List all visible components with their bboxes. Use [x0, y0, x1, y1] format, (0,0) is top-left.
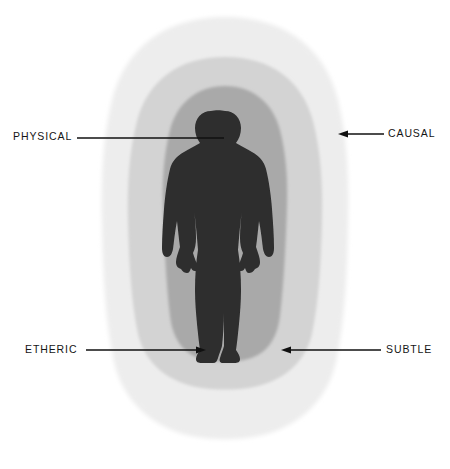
- label-subtle: SUBTLE: [386, 344, 432, 355]
- label-physical: PHYSICAL: [13, 131, 72, 142]
- aura-diagram-page: PHYSICAL CAUSAL ETHERIC SUBTLE: [0, 0, 450, 469]
- aura-diagram-graphic: [0, 0, 450, 469]
- label-causal: CAUSAL: [388, 128, 435, 139]
- leader-line-causal: [338, 131, 384, 138]
- label-etheric: ETHERIC: [25, 344, 77, 355]
